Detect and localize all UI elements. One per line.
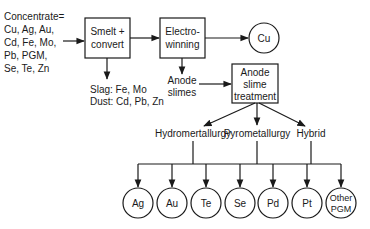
product-pgm-label: PGM [331, 204, 352, 214]
concentrate-line-1: Cu, Ag, Au, [4, 24, 54, 35]
arrow-to-hybrid [259, 103, 305, 126]
product-te: Te [191, 188, 221, 218]
product-pt: Pt [292, 188, 322, 218]
smelt-line-0: Smelt + [90, 26, 124, 37]
product-ag-label: Ag [132, 198, 144, 209]
treatment-line-2: treatment [234, 91, 276, 102]
treatment-line-0: Anode [241, 67, 270, 78]
route-pyrometallurgy-label: Pyrometallurgy [224, 128, 291, 139]
node-cu-product: Cu [249, 23, 279, 53]
electrowinning-line-1: winning [165, 39, 200, 50]
slag-label: Slag: Fe, Mo [90, 84, 147, 95]
node-electrowinning: Electro- winning [160, 18, 205, 58]
node-smelt-convert: Smelt + convert [85, 18, 130, 58]
concentrate-line-4: Se, Te, Zn [4, 63, 49, 74]
product-pt-label: Pt [302, 198, 312, 209]
product-te-label: Te [201, 198, 212, 209]
electrowinning-line-0: Electro- [165, 26, 199, 37]
product-other-pgm: Other PGM [326, 188, 356, 218]
concentrate-line-2: Cd, Fe, Mo, [4, 37, 56, 48]
product-pd: Pd [258, 188, 288, 218]
route-hydrometallurgy-label: Hydromertallurgy [155, 128, 231, 139]
node-anode-slime-treatment: Anode slime treatment [232, 64, 278, 103]
route-hybrid-label: Hybrid [297, 128, 326, 139]
anode-slimes-line-0: Anode [168, 75, 197, 86]
treatment-line-1: slime [243, 79, 267, 90]
product-au: Au [157, 188, 187, 218]
cu-label: Cu [258, 33, 271, 44]
byproducts-label: Slag: Fe, Mo Dust: Cd, Pb, Zn [90, 84, 164, 107]
dust-label: Dust: Cd, Pb, Zn [90, 96, 164, 107]
process-flow-diagram: Concentrate= Cu, Ag, Au, Cd, Fe, Mo, Pb,… [0, 0, 370, 229]
concentrate-line-3: Pb, PGM, [4, 50, 47, 61]
product-pd-label: Pd [267, 198, 279, 209]
anode-slimes-line-1: slimes [168, 87, 196, 98]
concentrate-input-label: Concentrate= Cu, Ag, Au, Cd, Fe, Mo, Pb,… [4, 11, 64, 74]
product-se-label: Se [234, 198, 247, 209]
product-au-label: Au [166, 198, 178, 209]
product-ag: Ag [123, 188, 153, 218]
anode-slimes-label: Anode slimes [168, 75, 197, 98]
product-se: Se [225, 188, 255, 218]
smelt-line-1: convert [91, 39, 124, 50]
product-other-label: Other [330, 193, 353, 203]
concentrate-line-0: Concentrate= [4, 11, 64, 22]
arrow-to-hydrometallurgy [204, 103, 255, 126]
